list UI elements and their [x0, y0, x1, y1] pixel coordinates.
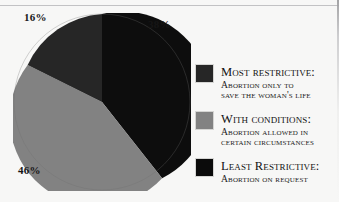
- legend-title: Most restrictive:: [221, 65, 315, 79]
- legend-title: With conditions:: [221, 112, 311, 126]
- pie-chart-figure: 38% 46% 16% Most restrictive: Abortion o…: [0, 0, 339, 202]
- legend-text-block: With conditions: Abortion allowed in cer…: [221, 109, 339, 148]
- legend-item-most-restrictive: Most restrictive: Abortion only to save …: [195, 62, 339, 101]
- legend-subtitle: Abortion only to save the woman's life: [221, 80, 339, 101]
- legend-subtitle-line: Abortion on request: [221, 174, 339, 184]
- legend-subtitle: Abortion allowed in certain circumstance…: [221, 127, 339, 148]
- legend-title: Least Restrictive:: [221, 159, 319, 173]
- legend-swatch-icon: [195, 158, 214, 177]
- chart-legend: Most restrictive: Abortion only to save …: [195, 62, 339, 184]
- pie-label-with-conditions: 46%: [18, 164, 41, 176]
- pie-label-least-restrictive: 16%: [24, 11, 47, 23]
- legend-swatch-icon: [195, 111, 214, 130]
- legend-text-block: Most restrictive: Abortion only to save …: [221, 62, 339, 101]
- legend-subtitle-line: certain circumstances: [221, 137, 339, 147]
- legend-subtitle: Abortion on request: [221, 174, 339, 184]
- legend-swatch-icon: [195, 64, 214, 83]
- legend-item-least-restrictive: Least Restrictive: Abortion on request: [195, 156, 339, 184]
- legend-text-block: Least Restrictive: Abortion on request: [221, 156, 339, 184]
- pie-label-most-restrictive: 38%: [148, 18, 171, 30]
- legend-item-with-conditions: With conditions: Abortion allowed in cer…: [195, 109, 339, 148]
- legend-subtitle-line: save the woman's life: [221, 90, 339, 100]
